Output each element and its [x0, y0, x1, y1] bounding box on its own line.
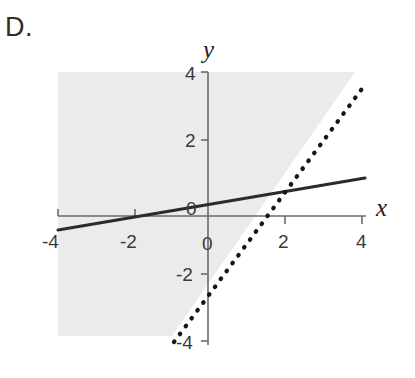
x-tick-label--2: -2	[120, 231, 137, 252]
y-tick-label--4: -4	[176, 332, 193, 353]
x-axis-label: x	[375, 194, 387, 221]
x-tick-label-2: 2	[278, 231, 289, 252]
y-tick-label--2: -2	[176, 264, 193, 285]
answer-choice-label: D.	[5, 14, 33, 41]
x-tick-label--4: -4	[42, 231, 59, 252]
y-tick-label-4: 4	[185, 63, 196, 84]
coordinate-plane: -4 -2 0 2 4 4 2 0 -2 -4 y x	[0, 0, 415, 378]
graph-figure: D. -4 -2 0 2 4 4 2 0 -2 -4 y	[0, 0, 415, 378]
y-tick-label-2: 2	[185, 130, 196, 151]
y-axis-label: y	[200, 36, 215, 63]
x-tick-label-4: 4	[356, 231, 367, 252]
origin-tick-label: 0	[186, 198, 197, 219]
x-tick-label-0: 0	[202, 233, 213, 254]
